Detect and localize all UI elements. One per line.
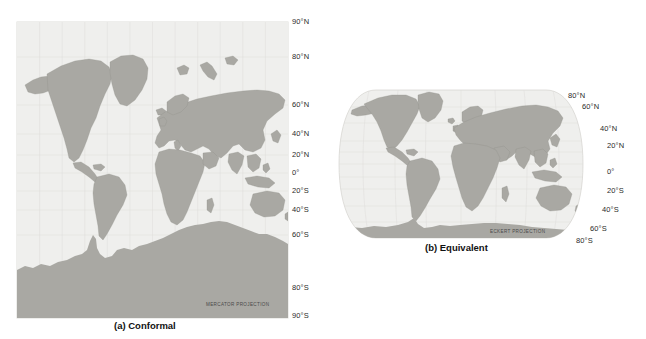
lat-label-0: 0° bbox=[607, 168, 614, 176]
lat-label-40n: 40°N bbox=[600, 125, 617, 133]
eckert-map-frame bbox=[336, 88, 586, 240]
mercator-projection-credit: MERCATOR PROJECTION bbox=[206, 303, 269, 308]
lat-label-60n: 60°N bbox=[292, 101, 309, 109]
lat-label-90s: 90°S bbox=[292, 312, 309, 320]
lat-label-20s: 20°S bbox=[292, 187, 309, 195]
panel-b-caption: (b) Equivalent bbox=[425, 243, 488, 253]
lat-label-0: 0° bbox=[292, 169, 299, 177]
eckert-projection-credit: ECKERT PROJECTION bbox=[490, 230, 545, 235]
lat-label-20s: 20°S bbox=[607, 187, 624, 195]
lat-label-60s: 60°S bbox=[590, 225, 607, 233]
panel-conformal-mercator: 90°N 80°N 60°N 40°N 20°N 0° 20°S 40°S 60… bbox=[0, 0, 330, 339]
lat-label-80n: 80°N bbox=[292, 53, 309, 61]
mercator-map-frame bbox=[17, 22, 288, 318]
lat-label-60s: 60°S bbox=[292, 231, 309, 239]
panel-equivalent-eckert: 80°N 60°N 40°N 20°N 0° 20°S 40°S 60°S 80… bbox=[330, 0, 646, 339]
lat-label-40s: 40°S bbox=[292, 206, 309, 214]
mercator-map-svg bbox=[17, 22, 288, 318]
panel-a-caption: (a) Conformal bbox=[114, 321, 176, 331]
lat-label-80s: 80°S bbox=[292, 284, 309, 292]
lat-label-40n: 40°N bbox=[292, 130, 309, 138]
eckert-map-svg bbox=[336, 88, 586, 240]
figure-root: 90°N 80°N 60°N 40°N 20°N 0° 20°S 40°S 60… bbox=[0, 0, 646, 339]
mercator-latitude-scale: 90°N 80°N 60°N 40°N 20°N 0° 20°S 40°S 60… bbox=[292, 0, 330, 339]
lat-label-20n: 20°N bbox=[607, 142, 624, 150]
lat-label-20n: 20°N bbox=[292, 151, 309, 159]
lat-label-90n: 90°N bbox=[292, 18, 309, 26]
lat-label-40s: 40°S bbox=[602, 206, 619, 214]
